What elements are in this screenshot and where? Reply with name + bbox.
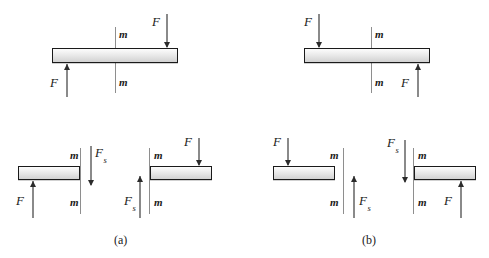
shear-force-label: Fs <box>387 136 398 152</box>
section-mass-label: m <box>418 150 427 161</box>
arrowhead-icon <box>30 181 36 187</box>
arrowhead-icon <box>137 176 143 182</box>
arrowhead-icon <box>196 160 202 166</box>
force-label-F: F <box>401 76 409 89</box>
force-arrow-down <box>198 138 200 165</box>
shear-subscript: s <box>103 155 106 165</box>
force-arrow-up <box>66 64 68 97</box>
cut-line <box>343 148 344 214</box>
section-mass-label: m <box>375 29 384 40</box>
section-mass-label: m <box>70 197 79 208</box>
shear-subscript: s <box>132 203 135 213</box>
arrowhead-icon <box>285 160 291 166</box>
force-label-F: F <box>16 194 24 207</box>
force-label-F: F <box>184 135 192 148</box>
force-arrow-down <box>166 14 168 47</box>
bar-segment <box>414 166 476 180</box>
cut-line <box>413 148 414 214</box>
arrowhead-icon <box>64 64 70 70</box>
force-label-F: F <box>304 15 312 28</box>
arrowhead-icon <box>351 176 357 182</box>
shear-force-label: Fs <box>124 194 135 210</box>
bar-segment <box>150 166 212 180</box>
force-label-F: F <box>50 76 58 89</box>
arrowhead-icon <box>316 42 322 48</box>
shear-force-label: Fs <box>359 194 370 210</box>
section-mass-label: m <box>330 197 339 208</box>
section-mass-label: m <box>119 29 128 40</box>
bar-segment <box>273 166 335 180</box>
caption-a: (a) <box>114 233 127 248</box>
force-label-F: F <box>273 135 281 148</box>
bar <box>304 48 430 63</box>
section-mass-label: m <box>154 197 163 208</box>
shear-force-label: Fs <box>95 146 106 162</box>
cut-line <box>149 148 150 214</box>
section-mass-label: m <box>375 77 384 88</box>
shear-force-arrow-down <box>90 146 92 185</box>
arrowhead-icon <box>164 42 170 48</box>
force-label-F: F <box>152 15 160 28</box>
shear-force-arrow-down <box>404 140 406 182</box>
force-arrow-down <box>287 138 289 165</box>
force-arrow-up <box>32 181 34 218</box>
bar-segment <box>18 166 80 180</box>
arrowhead-icon <box>415 64 421 70</box>
shear-subscript: s <box>395 145 398 155</box>
bar <box>52 48 178 63</box>
caption-b: (b) <box>362 233 376 248</box>
section-mass-label: m <box>418 197 427 208</box>
section-mass-label: m <box>70 150 79 161</box>
arrowhead-icon <box>458 181 464 187</box>
force-label-F: F <box>444 194 452 207</box>
arrowhead-icon <box>402 177 408 183</box>
section-mass-label: m <box>330 150 339 161</box>
physics-figure: F F m m F F m m Fs F m m Fs F m m <box>0 0 489 258</box>
shear-subscript: s <box>367 203 370 213</box>
cut-line <box>80 148 81 214</box>
shear-force-arrow-up <box>139 176 141 218</box>
force-arrow-down <box>318 14 320 47</box>
section-mass-label: m <box>154 150 163 161</box>
shear-force-arrow-up <box>353 176 355 218</box>
section-mass-label: m <box>119 77 128 88</box>
arrowhead-icon <box>88 180 94 186</box>
force-arrow-up <box>460 181 462 218</box>
force-arrow-up <box>417 64 419 97</box>
